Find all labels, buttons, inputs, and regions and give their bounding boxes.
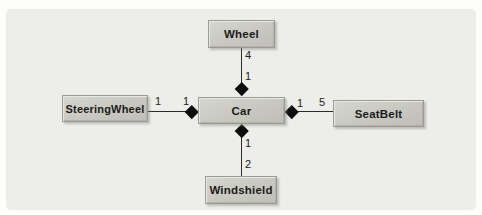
multiplicity-windshield-end: 2 [245, 159, 251, 170]
connector-car-windshield [241, 137, 242, 176]
class-label-steering-wheel: SteeringWheel [65, 103, 144, 115]
figure-canvas: 4 1 1 1 1 5 1 2 Wheel SteeringWheel Car … [0, 0, 482, 215]
connector-car-wheel [241, 48, 242, 83]
class-label-seat-belt: SeatBelt [355, 108, 403, 120]
class-label-windshield: Windshield [209, 184, 272, 196]
connector-car-seat-belt [297, 111, 333, 112]
class-box-steering-wheel: SteeringWheel [62, 95, 148, 122]
multiplicity-car-end-steering-wheel: 1 [183, 96, 189, 107]
multiplicity-seat-belt-end: 5 [319, 97, 325, 108]
multiplicity-steering-wheel-end: 1 [155, 96, 161, 107]
class-box-wheel: Wheel [208, 20, 275, 48]
connector-car-steering-wheel [148, 111, 186, 112]
multiplicity-car-end-seat-belt: 1 [297, 98, 303, 109]
class-label-wheel: Wheel [224, 28, 259, 40]
multiplicity-wheel-end: 4 [245, 50, 251, 61]
multiplicity-car-end-wheel: 1 [245, 71, 251, 82]
class-box-car: Car [198, 97, 285, 124]
class-box-seat-belt: SeatBelt [333, 100, 424, 127]
class-box-windshield: Windshield [205, 176, 277, 204]
class-label-car: Car [232, 105, 252, 117]
multiplicity-car-end-windshield: 1 [245, 138, 251, 149]
